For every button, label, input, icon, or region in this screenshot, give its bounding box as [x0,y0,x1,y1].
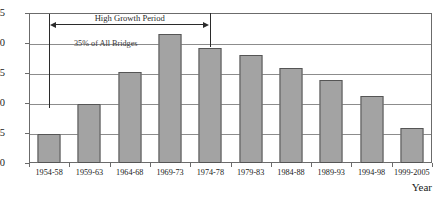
annotation-share-label: 35% of All Bridges [74,39,137,48]
x-axis-tick-mark [311,163,312,167]
y-axis-tick-label: 25 [0,8,5,18]
bar-slot [271,13,311,163]
bar [118,72,141,163]
bar [239,55,262,163]
bar-slot [110,13,150,163]
x-axis-tick-label: 1984-88 [271,168,311,177]
bar [38,134,61,163]
bar [360,96,383,163]
x-axis-tick-mark [190,163,191,167]
annotation-arrowhead-left [50,22,56,28]
bar-slot [69,13,109,163]
x-axis-tick-label: 1979-83 [231,168,271,177]
annotation-arrowhead-right [203,22,209,28]
bar [199,48,222,163]
x-axis-tick-label: 1954-58 [29,168,69,177]
x-axis-tick-mark [432,163,433,167]
x-axis-tick-label: 1994-98 [351,168,391,177]
x-axis-tick-mark [231,163,232,167]
x-axis-tick-mark [110,163,111,167]
bar-series [29,13,432,163]
bar-slot [351,13,391,163]
bar [279,68,302,163]
bar-slot [150,13,190,163]
x-axis-tick-label: 1964-68 [110,168,150,177]
bar-slot [392,13,432,163]
bar [400,128,423,163]
x-axis-tick-mark [69,163,70,167]
x-axis-tick-mark [351,163,352,167]
x-axis-tick-label: 1974-78 [190,168,230,177]
y-axis-tick-label: 5 [0,128,5,138]
bar-slot [311,13,351,163]
x-axis-tick-mark [29,163,30,167]
x-axis-tick-mark [150,163,151,167]
bar [320,80,343,163]
x-axis-tick-label: 1969-73 [150,168,190,177]
x-axis-tick-label: 1959-63 [69,168,109,177]
bar-chart: 0510152025 1954-581959-631964-681969-731… [0,0,438,200]
x-axis-tick-mark [271,163,272,167]
annotation-bracket-left [49,14,50,108]
clipped-title-remnant [44,0,434,3]
x-axis-tick-label: 1999-2005 [392,168,432,177]
x-axis-tick-label: 1989-93 [311,168,351,177]
annotation-arrow-line [53,24,206,25]
bar [78,104,101,163]
annotation-high-growth-label: High Growth Period [95,13,165,23]
y-axis-tick-label: 0 [0,158,5,168]
bar-slot [231,13,271,163]
y-axis-tick-label: 10 [0,98,5,108]
x-axis-title: Year [412,181,432,193]
annotation-bracket-right [210,13,211,47]
y-axis-tick-label: 15 [0,68,5,78]
x-axis-tick-mark [392,163,393,167]
bar [159,34,182,163]
y-axis-tick-label: 20 [0,38,5,48]
